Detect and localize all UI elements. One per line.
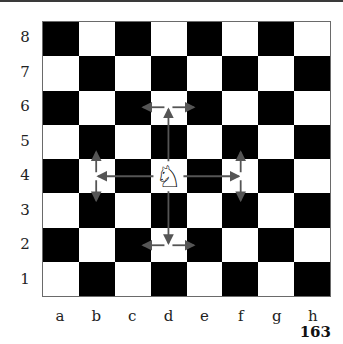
square-b7 xyxy=(79,56,115,90)
square-d5 xyxy=(151,125,187,159)
square-f5 xyxy=(222,125,258,159)
square-d2 xyxy=(151,228,187,262)
file-label: f xyxy=(223,307,259,325)
square-a1 xyxy=(43,262,79,296)
square-c7 xyxy=(115,56,151,90)
square-b1 xyxy=(79,262,115,296)
square-b8 xyxy=(79,22,115,56)
file-label: e xyxy=(187,307,223,325)
square-a4 xyxy=(43,159,79,193)
rank-label: 2 xyxy=(18,235,32,253)
square-f8 xyxy=(222,22,258,56)
square-c1 xyxy=(115,262,151,296)
file-label: c xyxy=(114,307,150,325)
file-label: a xyxy=(42,307,78,325)
square-h2 xyxy=(294,228,330,262)
square-g3 xyxy=(258,193,294,227)
square-e5 xyxy=(187,125,223,159)
rank-label: 5 xyxy=(18,132,32,150)
square-a7 xyxy=(43,56,79,90)
rank-label: 8 xyxy=(18,28,32,46)
square-b2 xyxy=(79,228,115,262)
square-b3 xyxy=(79,193,115,227)
square-h8 xyxy=(294,22,330,56)
square-c8 xyxy=(115,22,151,56)
square-f6 xyxy=(222,91,258,125)
square-c4 xyxy=(115,159,151,193)
square-c5 xyxy=(115,125,151,159)
square-h3 xyxy=(294,193,330,227)
square-f3 xyxy=(222,193,258,227)
square-e6 xyxy=(187,91,223,125)
square-a6 xyxy=(43,91,79,125)
rank-label: 3 xyxy=(18,201,32,219)
square-e1 xyxy=(187,262,223,296)
square-g6 xyxy=(258,91,294,125)
square-h1 xyxy=(294,262,330,296)
square-g8 xyxy=(258,22,294,56)
square-d7 xyxy=(151,56,187,90)
square-e4 xyxy=(187,159,223,193)
square-e2 xyxy=(187,228,223,262)
square-g4 xyxy=(258,159,294,193)
rank-label: 1 xyxy=(18,270,32,288)
square-h6 xyxy=(294,91,330,125)
square-b6 xyxy=(79,91,115,125)
square-c2 xyxy=(115,228,151,262)
square-g5 xyxy=(258,125,294,159)
square-d8 xyxy=(151,22,187,56)
file-label: b xyxy=(78,307,114,325)
square-c3 xyxy=(115,193,151,227)
square-c6 xyxy=(115,91,151,125)
square-d6 xyxy=(151,91,187,125)
square-f2 xyxy=(222,228,258,262)
square-a2 xyxy=(43,228,79,262)
square-g7 xyxy=(258,56,294,90)
rank-label: 6 xyxy=(18,97,32,115)
square-f1 xyxy=(222,262,258,296)
file-label: d xyxy=(150,307,186,325)
square-a5 xyxy=(43,125,79,159)
square-a3 xyxy=(43,193,79,227)
square-h7 xyxy=(294,56,330,90)
file-label: g xyxy=(259,307,295,325)
square-d3 xyxy=(151,193,187,227)
square-d4 xyxy=(151,159,187,193)
square-f7 xyxy=(222,56,258,90)
square-b5 xyxy=(79,125,115,159)
page-number: 163 xyxy=(300,323,331,341)
square-d1 xyxy=(151,262,187,296)
square-h5 xyxy=(294,125,330,159)
chessboard xyxy=(42,21,331,297)
square-e7 xyxy=(187,56,223,90)
square-a8 xyxy=(43,22,79,56)
square-g1 xyxy=(258,262,294,296)
square-e8 xyxy=(187,22,223,56)
square-b4 xyxy=(79,159,115,193)
square-h4 xyxy=(294,159,330,193)
square-e3 xyxy=(187,193,223,227)
top-rule xyxy=(0,0,343,2)
square-g2 xyxy=(258,228,294,262)
rank-label: 4 xyxy=(18,166,32,184)
square-f4 xyxy=(222,159,258,193)
rank-label: 7 xyxy=(18,63,32,81)
